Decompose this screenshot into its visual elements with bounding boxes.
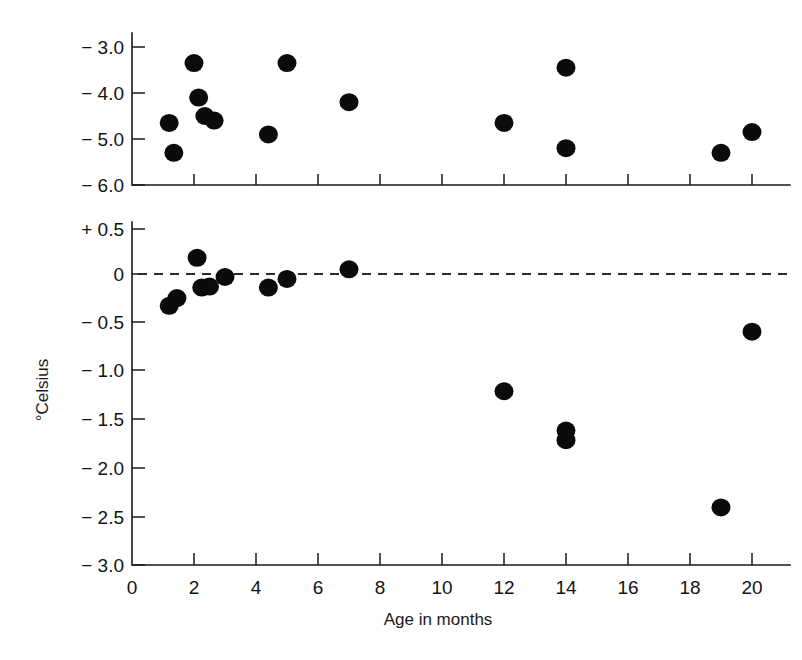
bottom-y-label-3: − 1.0 bbox=[81, 360, 124, 381]
data-point bbox=[185, 54, 204, 72]
data-point bbox=[557, 139, 576, 157]
data-point bbox=[188, 249, 207, 267]
x-tick-label-8: 8 bbox=[375, 577, 386, 598]
x-tick-label-4: 4 bbox=[251, 577, 262, 598]
data-point bbox=[557, 59, 576, 77]
data-point bbox=[743, 323, 762, 341]
top-y-label-3: − 6.0 bbox=[81, 175, 124, 196]
data-point bbox=[189, 89, 208, 107]
bottom-panel-data-points bbox=[160, 249, 762, 517]
data-point bbox=[557, 431, 576, 449]
data-point bbox=[278, 54, 297, 72]
data-point bbox=[278, 270, 297, 288]
x-tick-label-20: 20 bbox=[741, 577, 762, 598]
bottom-y-label-7: − 3.0 bbox=[81, 555, 124, 576]
top-panel-axis-lines bbox=[132, 33, 790, 185]
bottom-y-label-1: 0 bbox=[113, 264, 124, 285]
bottom-panel-y-ticks bbox=[132, 229, 145, 565]
data-point bbox=[340, 93, 359, 111]
x-tick-label-6: 6 bbox=[313, 577, 324, 598]
top-panel-x-ticks bbox=[194, 174, 752, 185]
data-point bbox=[259, 279, 278, 297]
data-point bbox=[164, 144, 183, 162]
data-point bbox=[160, 114, 179, 132]
data-point bbox=[340, 260, 359, 278]
top-panel-y-tick-labels: − 3.0 − 4.0 − 5.0 − 6.0 bbox=[81, 37, 124, 196]
bottom-panel: + 0.5 0 − 0.5 − 1.0 − 1.5 − 2.0 − 2.5 − … bbox=[81, 219, 790, 598]
x-tick-label-16: 16 bbox=[617, 577, 638, 598]
bottom-y-label-0: + 0.5 bbox=[81, 219, 124, 240]
scatter-figure: − 3.0 − 4.0 − 5.0 − 6.0 + 0.5 0 − 0.5 − … bbox=[0, 0, 802, 660]
x-tick-label-10: 10 bbox=[431, 577, 452, 598]
bottom-panel-x-ticks bbox=[194, 553, 752, 565]
x-tick-label-18: 18 bbox=[679, 577, 700, 598]
data-point bbox=[495, 114, 514, 132]
data-point bbox=[743, 123, 762, 141]
x-tick-label-0: 0 bbox=[127, 577, 138, 598]
data-point bbox=[216, 268, 235, 286]
x-tick-label-14: 14 bbox=[555, 577, 577, 598]
x-tick-label-2: 2 bbox=[189, 577, 200, 598]
y-axis-title: °Celsius bbox=[33, 359, 52, 422]
bottom-y-label-2: − 0.5 bbox=[81, 312, 124, 333]
bottom-y-label-5: − 2.0 bbox=[81, 458, 124, 479]
data-point bbox=[200, 278, 219, 296]
bottom-y-label-6: − 2.5 bbox=[81, 507, 124, 528]
top-panel: − 3.0 − 4.0 − 5.0 − 6.0 bbox=[81, 33, 790, 196]
x-tick-label-12: 12 bbox=[493, 577, 514, 598]
data-point bbox=[712, 144, 731, 162]
top-y-label-0: − 3.0 bbox=[81, 37, 124, 58]
data-point bbox=[205, 112, 224, 130]
top-y-label-2: − 5.0 bbox=[81, 129, 124, 150]
data-point bbox=[259, 125, 278, 143]
bottom-panel-y-tick-labels: + 0.5 0 − 0.5 − 1.0 − 1.5 − 2.0 − 2.5 − … bbox=[81, 219, 124, 576]
top-y-label-1: − 4.0 bbox=[81, 83, 124, 104]
bottom-y-label-4: − 1.5 bbox=[81, 409, 124, 430]
x-axis-title: Age in months bbox=[384, 610, 493, 629]
data-point bbox=[495, 382, 514, 400]
bottom-panel-x-tick-labels: 02468101214161820 bbox=[127, 577, 763, 598]
data-point bbox=[167, 289, 186, 307]
data-point bbox=[712, 498, 731, 516]
top-panel-data-points bbox=[160, 54, 762, 162]
top-panel-y-ticks bbox=[132, 47, 145, 185]
